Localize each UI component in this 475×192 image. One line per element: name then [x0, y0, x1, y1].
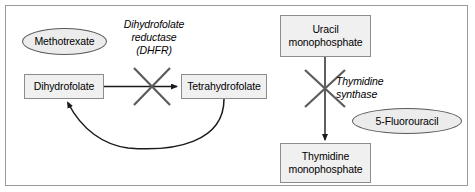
figure-container: Methotrexate Dihydrofolate Tetrahydrofol…	[0, 0, 475, 192]
node-tetrahydrofolate[interactable]: Tetrahydrofolate	[181, 74, 267, 99]
enzyme-label-thymidine-synthase: Thymidine synthase	[336, 75, 416, 101]
enzyme-label-dhfr: Dihydrofolate reductase (DHFR)	[113, 18, 195, 56]
tetrahydrofolate-recycle-arrow	[68, 99, 224, 149]
node-5-fluorouracil[interactable]: 5-Fluorouracil	[352, 108, 462, 134]
node-uracil-monophosphate[interactable]: Uracil monophosphate	[280, 15, 371, 57]
node-dihydrofolate[interactable]: Dihydrofolate	[24, 74, 104, 99]
node-methotrexate[interactable]: Methotrexate	[22, 28, 107, 55]
node-thymidine-monophosphate[interactable]: Thymidine monophosphate	[280, 143, 371, 183]
